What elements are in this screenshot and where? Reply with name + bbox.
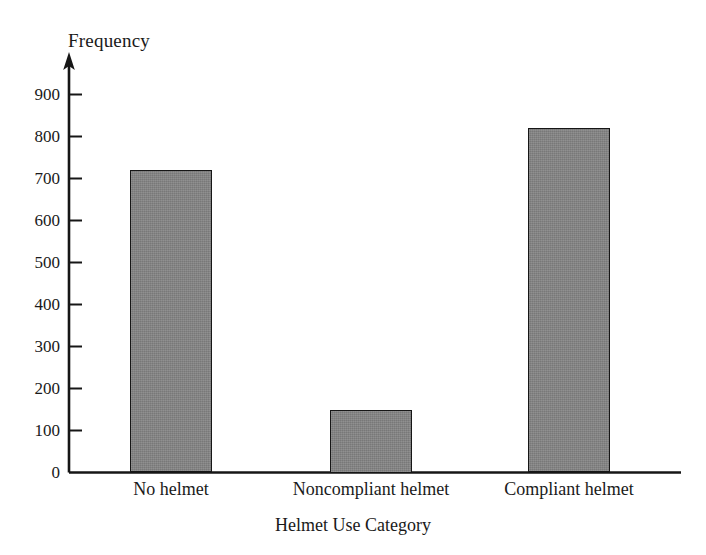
y-tick-label: 400	[8, 296, 60, 313]
y-tick-label: 600	[8, 212, 60, 229]
x-category-label-noncompliant-helmet: Noncompliant helmet	[293, 479, 449, 500]
bar-noncompliant-helmet	[330, 410, 412, 473]
y-tick-label: 800	[8, 128, 60, 145]
y-tick-label: 900	[8, 86, 60, 103]
y-tick-label: 500	[8, 254, 60, 271]
y-tick-label: 200	[8, 380, 60, 397]
x-axis-title: Helmet Use Category	[0, 515, 706, 536]
bar-no-helmet	[130, 170, 212, 472]
bar-chart: Frequency 900 800 700 600 500 400 300 20…	[0, 0, 706, 555]
x-category-label-no-helmet: No helmet	[133, 479, 208, 500]
y-tick-label: 300	[8, 338, 60, 355]
bar-compliant-helmet	[528, 128, 610, 472]
y-tick-label: 700	[8, 170, 60, 187]
y-tick-marks	[69, 95, 82, 431]
y-tick-label: 0	[8, 464, 60, 481]
x-category-label-compliant-helmet: Compliant helmet	[504, 479, 633, 500]
y-tick-label: 100	[8, 422, 60, 439]
y-tick-label-group: 900 800 700 600 500 400 300 200 100 0	[8, 0, 60, 555]
